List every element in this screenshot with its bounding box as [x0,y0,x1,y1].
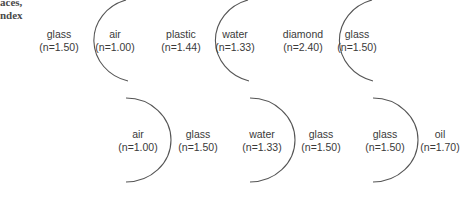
refractive-index: (n=1.50) [39,41,78,54]
refractive-index: (n=1.70) [420,141,459,154]
medium-name: glass [337,28,376,41]
medium-name: glass [39,28,78,41]
refractive-index: (n=1.33) [215,41,254,54]
refractive-index: (n=1.50) [301,141,340,154]
medium-label: glass (n=1.50) [365,128,404,154]
medium-label: air (n=1.00) [95,28,134,54]
refractive-index: (n=2.40) [283,41,323,54]
medium-label: glass (n=1.50) [337,28,376,54]
medium-name: water [242,128,281,141]
medium-name: water [215,28,254,41]
refractive-index: (n=1.33) [242,141,281,154]
medium-name: air [95,28,134,41]
medium-label: glass (n=1.50) [301,128,340,154]
refractive-index: (n=1.44) [161,41,200,54]
medium-label: air (n=1.00) [118,128,157,154]
refractive-index: (n=1.50) [178,141,217,154]
refractive-index: (n=1.50) [365,141,404,154]
medium-label: water (n=1.33) [242,128,281,154]
refractive-index: (n=1.00) [118,141,157,154]
medium-name: glass [301,128,340,141]
medium-label: diamond (n=2.40) [283,28,323,54]
medium-label: oil (n=1.70) [420,128,459,154]
medium-label: glass (n=1.50) [178,128,217,154]
medium-label: plastic (n=1.44) [161,28,200,54]
medium-name: oil [420,128,459,141]
medium-label: glass (n=1.50) [39,28,78,54]
refractive-index: (n=1.50) [337,41,376,54]
medium-name: diamond [283,28,323,41]
medium-name: glass [178,128,217,141]
refractive-index: (n=1.00) [95,41,134,54]
medium-name: glass [365,128,404,141]
medium-label: water (n=1.33) [215,28,254,54]
medium-name: plastic [161,28,200,41]
medium-name: air [118,128,157,141]
